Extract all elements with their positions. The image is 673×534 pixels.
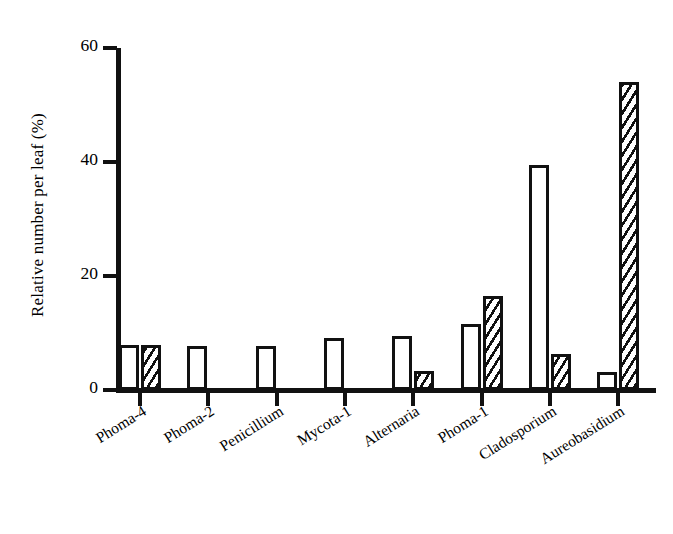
bar-hatched	[619, 82, 639, 390]
bars-layer	[0, 0, 673, 390]
chart-figure: Relative number per leaf (%) 0204060 Pho…	[0, 0, 673, 534]
bar-hatched	[483, 296, 503, 390]
bar-open	[187, 346, 207, 390]
bar-open	[461, 324, 481, 390]
bar-open	[119, 345, 139, 390]
bar-open	[392, 336, 412, 390]
bar-hatched	[551, 354, 571, 390]
bar-open	[597, 372, 617, 390]
bar-open	[256, 346, 276, 390]
bar-hatched	[141, 345, 161, 390]
bar-open	[324, 338, 344, 390]
bar-open	[529, 165, 549, 390]
bar-hatched	[414, 371, 434, 390]
